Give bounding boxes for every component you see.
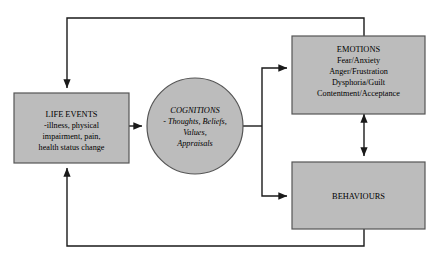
life-events-line-2: impairment, pain, [43,132,101,141]
cognitions-line-1: - Thoughts, Beliefs, [163,117,227,126]
node-life-events: LIFE EVENTS -illness, physical impairmen… [14,93,129,163]
life-events-line-3: health status change [39,143,105,152]
node-emotions: EMOTIONS Fear/Anxiety Anger/Frustration … [292,36,425,114]
diagram-canvas: LIFE EVENTS -illness, physical impairmen… [0,0,442,265]
cognitions-circle [147,78,243,174]
life-events-line-1: -illness, physical [44,121,100,130]
life-events-line-0: LIFE EVENTS [46,110,98,119]
emotions-line-1: Fear/Anxiety [337,56,381,65]
edge-cognitions-to-emotions [262,68,287,126]
cognitions-line-3: Appraisals [176,139,213,148]
emotions-line-3: Dysphoria/Guilt [332,78,386,87]
emotions-line-4: Contentment/Acceptance [317,89,400,98]
behaviours-line-0: BEHAVIOURS [332,192,385,201]
cognitive-behavioural-model-diagram: LIFE EVENTS -illness, physical impairmen… [0,0,442,265]
emotions-line-2: Anger/Frustration [329,67,388,76]
edge-cognitions-to-behaviours [262,126,287,196]
node-behaviours: BEHAVIOURS [292,162,425,229]
cognitions-line-0: COGNITIONS [170,106,220,115]
node-cognitions: COGNITIONS - Thoughts, Beliefs, Values, … [147,78,243,174]
emotions-line-0: EMOTIONS [337,45,381,54]
cognitions-line-2: Values, [183,128,206,137]
